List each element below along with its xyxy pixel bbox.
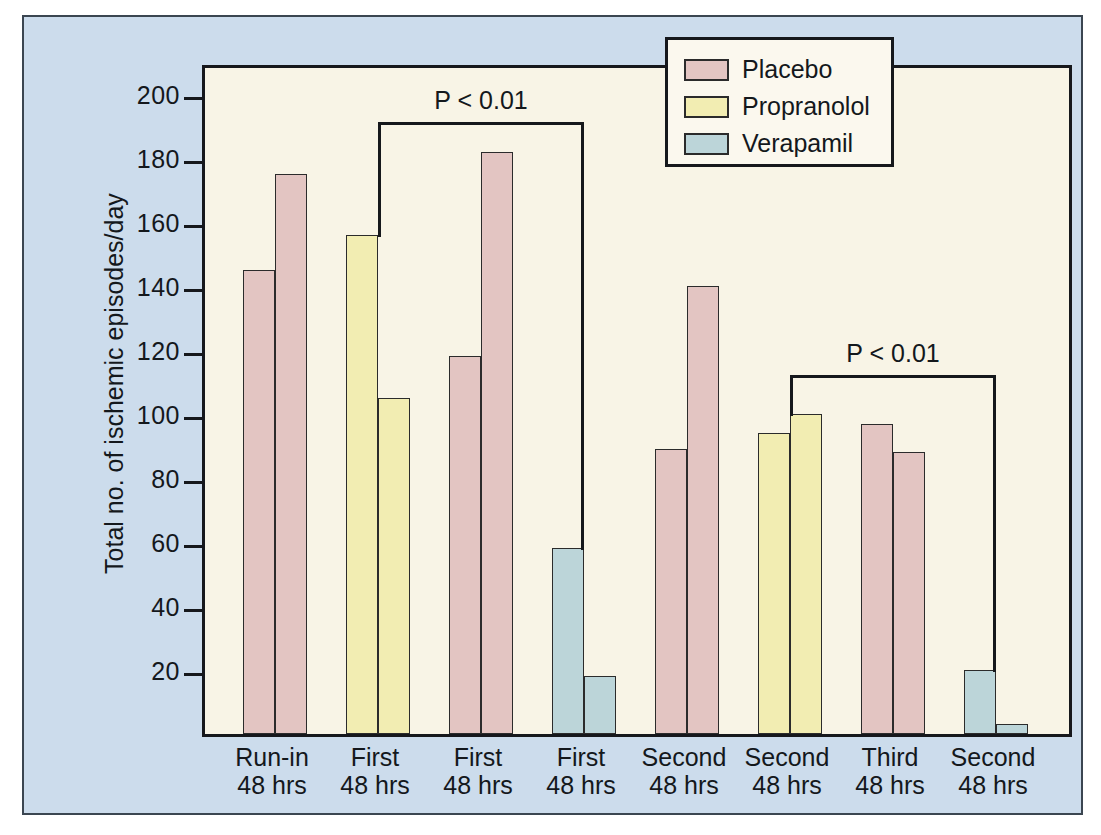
y-tick-label-100: 100 [137, 401, 180, 430]
y-tick-label-80: 80 [151, 465, 180, 494]
bar-placebo-g0-0 [243, 270, 275, 734]
x-tick-label-2-line2: 48 hrs [418, 771, 538, 799]
bar-placebo-g4-1 [687, 286, 719, 734]
significance-bracket-0-line [378, 122, 584, 125]
x-tick-label-1-line2: 48 hrs [315, 771, 435, 799]
x-tick-label-6: Third48 hrs [830, 743, 950, 799]
x-tick-label-4: Second48 hrs [624, 743, 744, 799]
x-axis-tick-labels: Run-in48 hrsFirst48 hrsFirst48 hrsFirst4… [202, 743, 1072, 823]
y-tick-label-200: 200 [137, 81, 180, 110]
bar-propranolol-g1-0 [346, 235, 378, 734]
y-tick-mark-120 [184, 353, 202, 356]
x-tick-label-2: First48 hrs [418, 743, 538, 799]
significance-bracket-1-line [790, 375, 996, 378]
x-tick-label-3-line2: 48 hrs [521, 771, 641, 799]
legend: Placebo Propranolol Verapamil [665, 37, 894, 167]
y-axis-tick-marks [184, 65, 202, 737]
y-tick-label-60: 60 [151, 529, 180, 558]
figure-panel: Total no. of ischemic episodes/day 20406… [22, 15, 1083, 815]
x-tick-label-2-line1: First [418, 743, 538, 771]
y-tick-label-140: 140 [137, 273, 180, 302]
legend-item-verapamil: Verapamil [684, 125, 891, 162]
bar-placebo-g4-0 [655, 449, 687, 734]
y-tick-mark-180 [184, 161, 202, 164]
bar-verapamil-g7-0 [964, 670, 996, 734]
y-tick-label-20: 20 [151, 657, 180, 686]
legend-swatch-placebo [684, 59, 729, 81]
x-tick-label-4-line2: 48 hrs [624, 771, 744, 799]
significance-bracket-0-label: P < 0.01 [378, 86, 584, 115]
significance-bracket-1-left-leg [790, 375, 793, 416]
x-tick-label-4-line1: Second [624, 743, 744, 771]
y-tick-label-180: 180 [137, 145, 180, 174]
x-tick-label-5-line1: Second [727, 743, 847, 771]
x-tick-label-7: Second48 hrs [933, 743, 1053, 799]
y-tick-mark-160 [184, 225, 202, 228]
legend-swatch-propranolol [684, 96, 729, 118]
x-tick-label-3: First48 hrs [521, 743, 641, 799]
x-tick-label-5: Second48 hrs [727, 743, 847, 799]
bar-propranolol-g5-0 [758, 433, 790, 734]
x-tick-label-3-line1: First [521, 743, 641, 771]
x-tick-label-1: First48 hrs [315, 743, 435, 799]
y-tick-mark-40 [184, 609, 202, 612]
y-tick-mark-60 [184, 545, 202, 548]
x-tick-label-6-line2: 48 hrs [830, 771, 950, 799]
plot-area: P < 0.01P < 0.01 [202, 65, 1072, 737]
y-tick-mark-140 [184, 289, 202, 292]
x-tick-label-0-line2: 48 hrs [212, 771, 332, 799]
bar-placebo-g2-0 [449, 356, 481, 734]
figure-root: Total no. of ischemic episodes/day 20406… [0, 0, 1101, 835]
bar-propranolol-g5-1 [790, 414, 822, 734]
significance-bracket-0-right-leg [581, 122, 584, 550]
y-axis-tick-labels: 20406080100120140160180200 [88, 65, 180, 737]
bar-verapamil-g7-1 [996, 724, 1028, 734]
x-tick-label-0-line1: Run-in [212, 743, 332, 771]
x-tick-label-1-line1: First [315, 743, 435, 771]
significance-bracket-1-label: P < 0.01 [790, 339, 996, 368]
bar-verapamil-g3-0 [552, 548, 584, 734]
legend-item-placebo: Placebo [684, 51, 891, 88]
plot-inner: P < 0.01P < 0.01 [205, 68, 1069, 734]
legend-swatch-verapamil [684, 133, 729, 155]
y-tick-mark-100 [184, 417, 202, 420]
x-tick-label-6-line1: Third [830, 743, 950, 771]
bar-verapamil-g3-1 [584, 676, 616, 734]
bar-placebo-g6-0 [861, 424, 893, 734]
legend-label-propranolol: Propranolol [742, 92, 870, 121]
x-tick-label-7-line1: Second [933, 743, 1053, 771]
y-tick-mark-200 [184, 97, 202, 100]
bar-propranolol-g1-1 [378, 398, 410, 734]
y-tick-label-160: 160 [137, 209, 180, 238]
x-tick-label-7-line2: 48 hrs [933, 771, 1053, 799]
y-tick-mark-80 [184, 481, 202, 484]
legend-item-propranolol: Propranolol [684, 88, 891, 125]
legend-label-placebo: Placebo [742, 55, 832, 84]
y-tick-mark-20 [184, 673, 202, 676]
bar-placebo-g0-1 [275, 174, 307, 734]
significance-bracket-0-left-leg [378, 122, 381, 236]
y-tick-label-120: 120 [137, 337, 180, 366]
x-tick-label-5-line2: 48 hrs [727, 771, 847, 799]
significance-bracket-1-right-leg [993, 375, 996, 672]
bar-placebo-g6-1 [893, 452, 925, 734]
bar-placebo-g2-1 [481, 152, 513, 734]
y-tick-label-40: 40 [151, 593, 180, 622]
x-tick-label-0: Run-in48 hrs [212, 743, 332, 799]
legend-label-verapamil: Verapamil [742, 129, 853, 158]
